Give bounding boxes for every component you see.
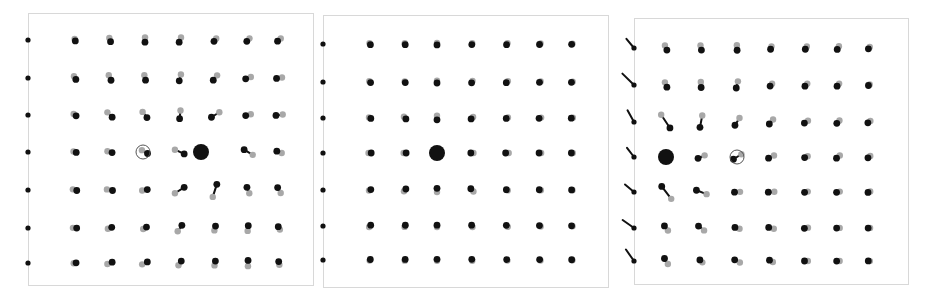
reference-dot	[668, 196, 674, 202]
displaced-dot	[833, 120, 840, 127]
displaced-dot	[865, 45, 872, 52]
displaced-dot	[661, 255, 668, 262]
displaced-dot	[767, 46, 774, 53]
displaced-dot	[864, 119, 871, 126]
reference-dot	[658, 112, 664, 118]
displaced-dot	[767, 83, 774, 90]
displaced-dot	[731, 189, 738, 196]
displaced-dot	[865, 189, 872, 196]
displaced-dot	[658, 183, 665, 190]
displaced-dot	[833, 225, 840, 232]
panel-right	[0, 0, 936, 307]
displaced-dot	[730, 156, 737, 163]
reference-dot	[701, 152, 707, 158]
displaced-dot	[731, 256, 738, 263]
reference-dot	[699, 112, 705, 118]
displaced-dot	[802, 83, 809, 90]
edge-vector	[626, 250, 634, 261]
displaced-dot	[663, 47, 670, 54]
reference-dot	[701, 227, 707, 233]
displaced-dot	[802, 46, 809, 53]
displaced-dot	[766, 257, 773, 264]
displaced-dot	[801, 120, 808, 127]
displaced-dot	[765, 189, 772, 196]
displaced-dot	[733, 85, 740, 92]
edge-vector	[622, 74, 634, 85]
edge-vector	[623, 220, 634, 228]
displaced-dot	[663, 84, 670, 91]
displaced-dot	[801, 154, 808, 161]
edge-vector	[628, 110, 634, 122]
displaced-dot	[865, 154, 872, 161]
displaced-dot	[865, 225, 872, 232]
edge-vector	[625, 184, 634, 192]
displaced-dot	[698, 84, 705, 91]
displaced-dot	[732, 224, 739, 231]
displaced-dot	[661, 223, 668, 230]
reference-dot	[735, 78, 741, 84]
displaced-dot	[833, 155, 840, 162]
displaced-dot	[865, 82, 872, 89]
reference-dot	[771, 189, 777, 195]
displaced-dot	[695, 155, 702, 162]
displaced-dot	[734, 47, 741, 54]
displaced-dot	[696, 257, 703, 264]
reference-dot	[665, 261, 671, 267]
displaced-dot	[697, 124, 704, 131]
displaced-dot	[698, 47, 705, 54]
displaced-dot	[695, 223, 702, 230]
reference-dot	[703, 191, 709, 197]
displaced-dot	[801, 189, 808, 196]
displaced-dot	[766, 121, 773, 128]
displacement-field-figure	[0, 0, 936, 307]
displaced-dot	[833, 189, 840, 196]
displaced-dot	[765, 224, 772, 231]
displaced-dot	[801, 225, 808, 232]
displaced-dot	[732, 122, 739, 129]
displaced-dot	[693, 187, 700, 194]
reference-dot	[736, 115, 742, 121]
displaced-dot	[865, 258, 872, 265]
displaced-dot	[834, 46, 841, 53]
highlighted-source-particle	[658, 149, 674, 165]
edge-vector	[627, 148, 634, 157]
displaced-dot	[765, 155, 772, 162]
edge-vector	[626, 39, 634, 48]
panel-frame	[635, 19, 909, 285]
displaced-dot	[833, 258, 840, 265]
displaced-dot	[834, 83, 841, 90]
displaced-dot	[667, 125, 674, 132]
displaced-dot	[801, 258, 808, 265]
